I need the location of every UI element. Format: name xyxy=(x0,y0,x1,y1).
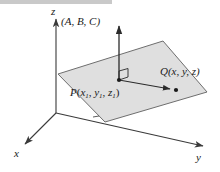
axis-y-line xyxy=(56,113,203,146)
plane-edge-tick xyxy=(93,116,99,117)
point-q-coords: (x, y, z) xyxy=(168,65,200,77)
point-p-label: P(x1, y1, z1) xyxy=(70,87,119,98)
point-p-z-sub: 1 xyxy=(112,92,115,99)
plane-normal-vector-diagram: z x y (A, B, C) P(x1, y1, z1) Q(x, y, z) xyxy=(0,0,220,172)
plane-surface xyxy=(58,41,207,122)
point-p-marker xyxy=(117,78,121,82)
point-p-close-paren: ) xyxy=(116,86,120,98)
point-p-x-sub: 1 xyxy=(85,92,88,99)
point-p-y-sub: 1 xyxy=(99,92,102,99)
point-p-name: P xyxy=(70,86,77,98)
point-q-label: Q(x, y, z) xyxy=(160,66,200,77)
point-q-marker xyxy=(174,88,178,92)
axis-label-z: z xyxy=(51,6,55,17)
normal-vector-label: (A, B, C) xyxy=(61,16,100,27)
point-q-name: Q xyxy=(160,65,168,77)
axis-x-line xyxy=(25,113,56,144)
axis-label-y: y xyxy=(196,152,201,163)
axis-label-x: x xyxy=(14,148,19,159)
